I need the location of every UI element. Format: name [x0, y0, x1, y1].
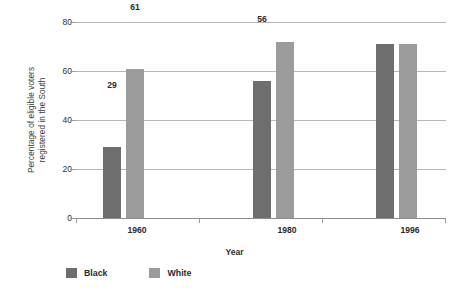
x-tick-mark-end — [445, 219, 446, 223]
x-category-label-1980: 1980 — [262, 225, 312, 235]
bar-1980-white[interactable] — [276, 42, 294, 218]
bar-value-1980-black: 56 — [249, 15, 275, 24]
legend-swatch-black-icon — [66, 268, 77, 278]
y-tick-label-80: 80 — [50, 18, 72, 27]
y-axis-title-line1: Percentage of eligible voters — [26, 67, 37, 173]
bar-1996-black[interactable] — [376, 44, 394, 218]
x-tick-mark-1 — [199, 219, 200, 223]
bar-value-1960-black: 29 — [99, 81, 125, 90]
x-category-label-1960: 1960 — [112, 225, 162, 235]
y-axis-tick-labels: 80 60 40 20 0 — [48, 0, 72, 303]
x-category-label-1996: 1996 — [385, 225, 435, 235]
bar-value-1960-white: 61 — [122, 3, 148, 12]
bar-1996-white[interactable] — [399, 44, 417, 218]
y-tick-label-40: 40 — [50, 116, 72, 125]
x-axis-title: Year — [0, 247, 469, 257]
chart-legend: Black White — [66, 268, 233, 278]
gridline-baseline-0 — [76, 218, 446, 219]
legend-item-black[interactable]: Black — [66, 268, 107, 278]
bar-1960-black[interactable] — [103, 147, 121, 218]
legend-item-white[interactable]: White — [149, 268, 191, 278]
bar-1980-black[interactable] — [253, 81, 271, 218]
legend-label-white: White — [167, 268, 191, 278]
legend-label-black: Black — [84, 268, 107, 278]
plot-area: 29 61 56 72 71 71 — [76, 22, 446, 218]
y-axis-title-line2: registered in the South — [37, 67, 48, 173]
x-tick-mark-2 — [322, 219, 323, 223]
y-tick-label-20: 20 — [50, 165, 72, 174]
y-tick-label-60: 60 — [50, 67, 72, 76]
y-tick-label-0: 0 — [50, 214, 72, 223]
x-tick-mark-start — [76, 219, 77, 223]
bar-chart: Percentage of eligible voters registered… — [0, 0, 469, 303]
bar-1960-white[interactable] — [126, 69, 144, 218]
legend-swatch-white-icon — [149, 268, 160, 278]
